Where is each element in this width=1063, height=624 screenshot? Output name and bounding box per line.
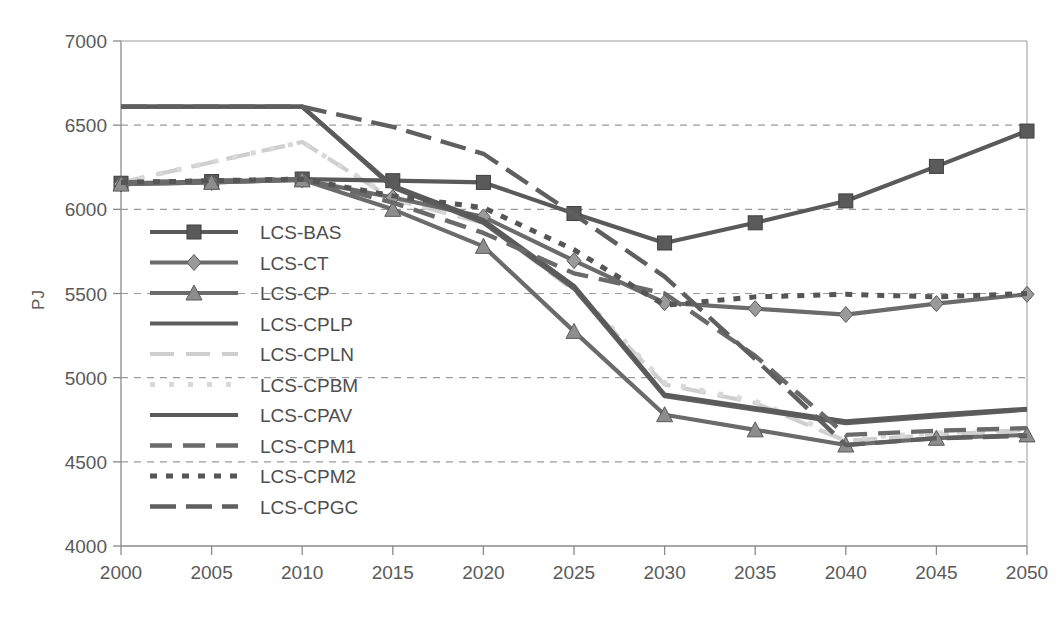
series-lcs-bas: [114, 124, 1034, 250]
data-point-marker: [929, 159, 943, 173]
series-line: [121, 107, 1027, 445]
legend-label: LCS-CPLP: [260, 314, 353, 335]
legend-item-lcs-cpm1[interactable]: LCS-CPM1: [150, 436, 356, 457]
y-tick-label: 4500: [65, 452, 107, 473]
y-tick-label: 5500: [65, 284, 107, 305]
data-point-marker: [748, 216, 762, 230]
legend-label: LCS-CPM2: [260, 466, 356, 487]
data-point-marker: [658, 236, 672, 250]
legend-label: LCS-BAS: [260, 222, 341, 243]
y-tick-label: 6500: [65, 115, 107, 136]
legend-label: LCS-CP: [260, 283, 330, 304]
chart-figure: 4000450050005500600065007000200020052010…: [0, 0, 1063, 624]
data-point-marker: [839, 194, 853, 208]
y-tick-label: 4000: [65, 536, 107, 557]
series-lcs-ct: [114, 172, 1034, 323]
legend-label: LCS-CT: [260, 253, 329, 274]
x-tick-label: 2035: [734, 562, 776, 583]
legend-swatch-marker: [187, 255, 201, 271]
x-tick-label: 2040: [825, 562, 867, 583]
y-tick-label: 7000: [65, 31, 107, 52]
y-tick-label: 5000: [65, 368, 107, 389]
x-tick-label: 2020: [462, 562, 504, 583]
legend-item-lcs-bas[interactable]: LCS-BAS: [150, 222, 341, 243]
legend-label: LCS-CPBM: [260, 375, 358, 396]
x-tick-label: 2030: [643, 562, 685, 583]
x-tick-label: 2010: [281, 562, 323, 583]
legend-label: LCS-CPLN: [260, 344, 354, 365]
legend-item-lcs-cpgc[interactable]: LCS-CPGC: [150, 497, 358, 518]
legend-label: LCS-CPM1: [260, 436, 356, 457]
legend-label: LCS-CPAV: [260, 405, 353, 426]
series-line: [121, 131, 1027, 243]
legend-item-lcs-cpln[interactable]: LCS-CPLN: [150, 344, 354, 365]
x-tick-label: 2025: [553, 562, 595, 583]
series-line: [121, 180, 1027, 315]
x-tick-label: 2045: [915, 562, 957, 583]
legend-label: LCS-CPGC: [260, 497, 358, 518]
legend-item-lcs-cpav[interactable]: LCS-CPAV: [150, 405, 353, 426]
y-axis-label: PJ: [29, 290, 48, 310]
data-point-marker: [1020, 124, 1034, 138]
data-point-marker: [748, 301, 762, 317]
legend-swatch-marker: [187, 225, 201, 239]
legend-item-lcs-cpm2[interactable]: LCS-CPM2: [150, 466, 356, 487]
legend-item-lcs-cplp[interactable]: LCS-CPLP: [150, 314, 353, 335]
data-point-marker: [839, 307, 853, 323]
x-tick-label: 2005: [190, 562, 232, 583]
line-chart: 4000450050005500600065007000200020052010…: [0, 0, 1063, 624]
y-tick-label: 6000: [65, 199, 107, 220]
data-point-marker: [567, 253, 581, 269]
x-tick-label: 2000: [100, 562, 142, 583]
series-lcs-cpgc: [121, 107, 1027, 445]
data-point-marker: [476, 175, 490, 189]
x-tick-label: 2050: [1006, 562, 1048, 583]
x-tick-label: 2015: [372, 562, 414, 583]
legend-item-lcs-ct[interactable]: LCS-CT: [150, 253, 329, 274]
